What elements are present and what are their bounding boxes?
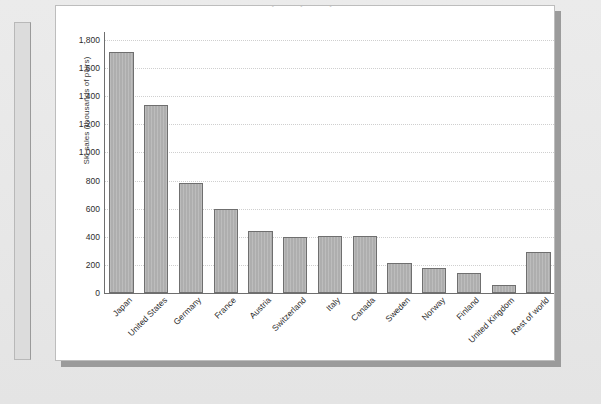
y-axis-tick-labels: 02004006008001,0001,2001,4001,6001,800 xyxy=(56,40,100,293)
adjacent-page-edge xyxy=(14,22,31,360)
y-axis-tick-label: 1,400 xyxy=(56,91,100,101)
x-axis-tick-label-text: Italy xyxy=(324,295,342,313)
y-axis-tick-label: 1,000 xyxy=(56,147,100,157)
y-axis-tick-label: 1,800 xyxy=(56,35,100,45)
x-axis-tick-label-text: Germany xyxy=(172,295,204,327)
x-axis-tick-label-text: Austria xyxy=(247,295,273,321)
bar xyxy=(109,52,133,293)
y-axis-tick-label: 600 xyxy=(56,204,100,214)
y-axis-tick-label: 800 xyxy=(56,176,100,186)
y-axis-tick-label: 0 xyxy=(56,288,100,298)
x-axis-tick-label-text: Japan xyxy=(110,295,133,318)
y-axis-tick-label: 1,200 xyxy=(56,119,100,129)
y-axis-tick-label: 1,600 xyxy=(56,63,100,73)
bars-layer xyxy=(104,40,555,293)
chart-plot-wrapper: Ski sales (thousands of pairs) 020040060… xyxy=(56,6,555,361)
x-axis-tick-label-text: Finland xyxy=(455,295,482,322)
x-axis-tick-labels: JapanUnited StatesGermanyFranceAustriaSw… xyxy=(104,295,555,361)
figure-panel: Ski sales by country, latest year availa… xyxy=(55,5,555,361)
bar xyxy=(353,236,377,293)
x-axis-tick-label-text: France xyxy=(212,295,238,321)
y-axis-tick-label: 400 xyxy=(56,232,100,242)
y-axis-tick-label: 200 xyxy=(56,260,100,270)
bar xyxy=(144,105,168,293)
x-axis-tick-label-text: Switzerland xyxy=(270,295,308,333)
x-axis-tick-label-text: Norway xyxy=(419,295,446,322)
x-axis-tick-label-text: Canada xyxy=(349,295,377,323)
x-axis-tick-label-text: Sweden xyxy=(383,295,412,324)
